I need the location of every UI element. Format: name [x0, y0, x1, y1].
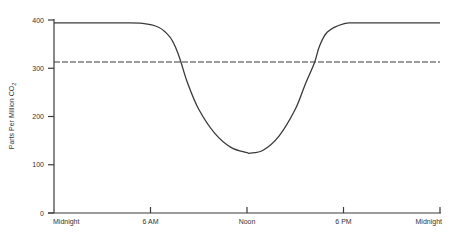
- y-ticks: 0100200300400: [32, 17, 54, 217]
- y-tick-label: 100: [32, 161, 44, 168]
- x-tick-label: 6 PM: [335, 218, 352, 225]
- x-tick-label: Midnight: [416, 218, 443, 226]
- y-tick-label: 400: [32, 17, 44, 24]
- x-ticks: Midnight6 AMNoon6 PMMidnight: [53, 207, 442, 226]
- x-tick-label: Noon: [239, 218, 256, 225]
- x-tick-label: 6 AM: [143, 218, 159, 225]
- co2-curve: [54, 23, 440, 154]
- x-tick-label: Midnight: [53, 218, 80, 226]
- co2-chart: 0100200300400 Midnight6 AMNoon6 PMMidnig…: [0, 0, 454, 241]
- y-axis-label: Parts Per Million CO2: [8, 83, 17, 149]
- series: [54, 23, 440, 154]
- y-tick-label: 0: [40, 210, 44, 217]
- axes: [48, 19, 441, 213]
- y-tick-label: 300: [32, 65, 44, 72]
- y-tick-label: 200: [32, 113, 44, 120]
